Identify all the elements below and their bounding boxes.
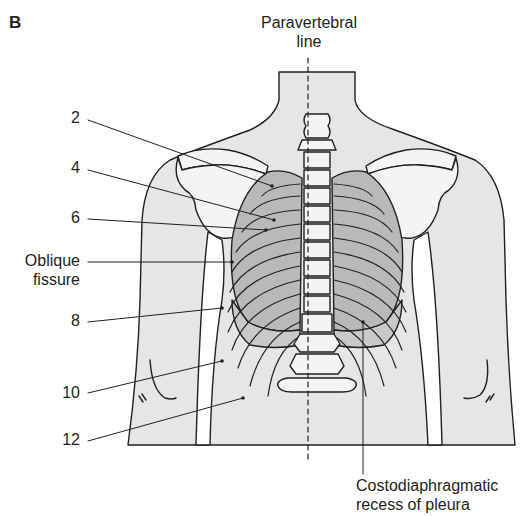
rib-4-label: 4: [50, 158, 80, 177]
costodiaphragmatic-recess-label: Costodiaphragmatic recess of pleura: [356, 476, 498, 514]
rib-12-label: 12: [50, 430, 80, 449]
rib-6-label: 6: [50, 208, 80, 227]
rib-2-label: 2: [50, 108, 80, 127]
paravertebral-line-label: Paravertebral line: [250, 13, 368, 51]
anatomy-figure: B Paravertebral line 2 4 6 Oblique fissu…: [0, 0, 522, 516]
rib-10-label: 10: [50, 383, 80, 402]
oblique-fissure-label: Oblique fissure: [14, 251, 80, 289]
panel-label: B: [9, 13, 21, 32]
rib-8-label: 8: [50, 311, 80, 330]
